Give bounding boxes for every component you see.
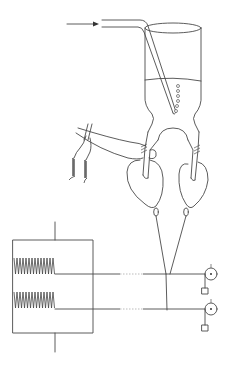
transducer-frame (13, 222, 93, 352)
electrode-lead-coils (69, 136, 91, 183)
tissue-left (127, 160, 163, 216)
pulley-lower-icon (205, 299, 217, 325)
apparatus-diagram (0, 0, 229, 367)
weight-upper-icon (202, 288, 208, 294)
spring-lower (14, 292, 205, 309)
pulley-upper-icon (205, 264, 217, 288)
tissue-holder-right (188, 132, 200, 181)
weight-lower-icon (202, 325, 208, 331)
bath-vessel (145, 23, 201, 140)
line-break-markers (120, 274, 143, 309)
tissue-right (179, 162, 208, 216)
tissue-threads (156, 216, 186, 310)
spring-upper (14, 258, 205, 274)
gas-inlet-tube (102, 20, 176, 114)
electrode-wires (76, 124, 146, 159)
tissue-holder-left (141, 132, 158, 179)
inlet-arrow-icon (67, 22, 99, 27)
